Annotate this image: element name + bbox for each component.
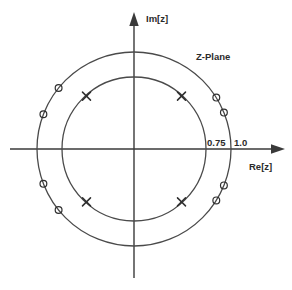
tick-label-outer: 1.0 bbox=[234, 137, 247, 148]
pole-marker bbox=[83, 198, 91, 206]
imaginary-axis-label: Im[z] bbox=[146, 13, 168, 24]
real-axis-arrow-icon bbox=[271, 144, 285, 153]
tick-label-inner: 0.75 bbox=[207, 137, 226, 148]
real-axis-label: Re[z] bbox=[249, 161, 272, 172]
imaginary-axis-arrow-icon bbox=[129, 12, 138, 26]
pole-zero-plot: Im[z] Re[z] Z-Plane 0.75 1.0 bbox=[0, 0, 292, 290]
pole-marker bbox=[83, 92, 91, 100]
pole-marker bbox=[178, 198, 186, 206]
z-plane-figure: Im[z] Re[z] Z-Plane 0.75 1.0 bbox=[0, 0, 292, 290]
pole-marker bbox=[178, 92, 186, 100]
z-plane-label: Z-Plane bbox=[196, 51, 230, 62]
